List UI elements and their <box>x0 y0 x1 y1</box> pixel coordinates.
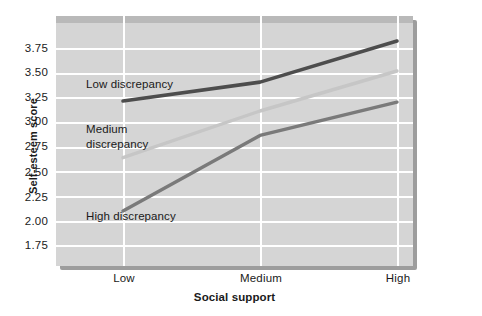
x-tick-label-low: Low <box>113 272 135 284</box>
annotation-medium-discrepancy-line2: discrepancy <box>86 138 148 151</box>
y-tick-label: 2.25 <box>25 192 48 204</box>
y-axis-ticks: 3.75 3.50 3.25 3.00 2.75 2.50 2.25 2.00 … <box>0 0 52 316</box>
y-tick-label: 2.00 <box>25 216 48 228</box>
y-tick-label: 3.00 <box>25 116 48 128</box>
y-tick-label: 2.50 <box>25 167 48 179</box>
y-tick-label: 1.75 <box>25 240 48 252</box>
y-tick-label: 2.75 <box>25 141 48 153</box>
annotation-low-discrepancy: Low discrepancy <box>86 78 173 91</box>
x-axis-title: Social support <box>56 291 413 303</box>
x-tick-label-high: High <box>386 272 410 284</box>
annotation-medium-discrepancy-line1: Medium <box>86 123 128 136</box>
annotation-high-discrepancy: High discrepancy <box>86 210 176 223</box>
plot-area: Low discrepancy Medium discrepancy High … <box>56 16 413 266</box>
x-tick-label-medium: Medium <box>240 272 282 284</box>
y-tick-label: 3.50 <box>25 67 48 79</box>
series-line-low-discrepancy <box>123 41 397 101</box>
y-tick-label: 3.75 <box>25 43 48 55</box>
y-tick-label: 3.25 <box>25 92 48 104</box>
series-line-high-discrepancy <box>123 102 397 211</box>
line-chart: Self-esteem score 3.75 3.50 3.25 3.00 2.… <box>0 0 482 316</box>
